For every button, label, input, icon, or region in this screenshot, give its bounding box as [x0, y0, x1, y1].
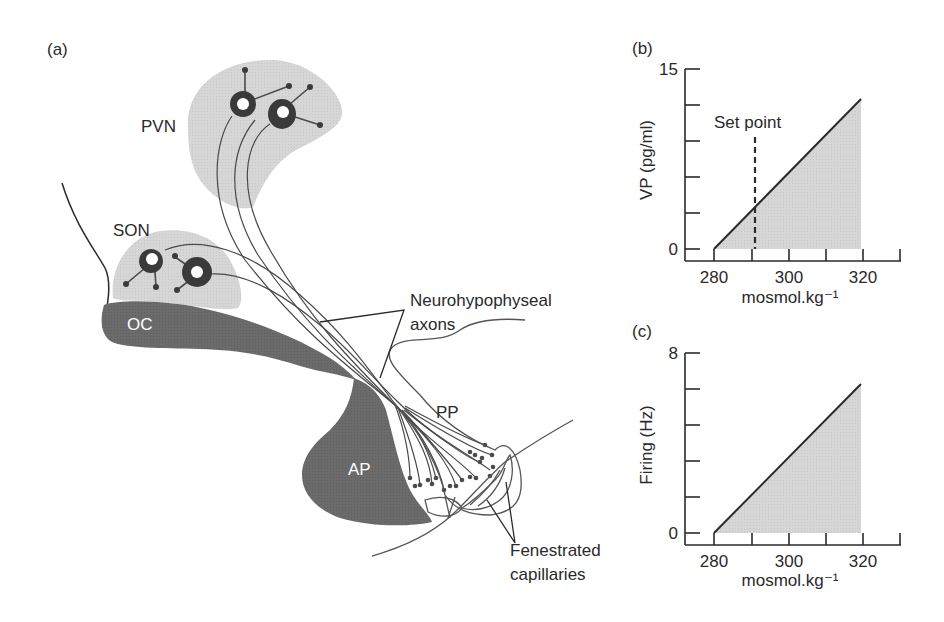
- panel-b-y-axis: [685, 69, 700, 261]
- set-point-label: Set point: [714, 113, 781, 132]
- panel-b-label: (b): [632, 39, 653, 58]
- capillaries-label-line1: Fenestrated: [510, 541, 601, 560]
- panel-c-ytick-bottom: 0: [669, 524, 678, 543]
- panel-b-xtick-280: 280: [700, 268, 728, 287]
- panel-b-ytick-bottom: 0: [669, 240, 678, 259]
- oc-label: OC: [127, 315, 153, 334]
- panel-c-label: (c): [632, 322, 652, 341]
- panel-b-xtick-320: 320: [849, 268, 877, 287]
- panel-a-label: (a): [47, 40, 68, 59]
- capillaries-label-line2: capillaries: [510, 565, 586, 584]
- panel-c-ylabel: Firing (Hz): [637, 405, 656, 484]
- panel-b-xtick-300: 300: [775, 268, 803, 287]
- panel-b-ylabel: VP (pg/ml): [637, 120, 656, 200]
- axons-label-line2: axons: [410, 315, 455, 334]
- boundary-curve: [62, 183, 109, 328]
- ap-label: AP: [348, 460, 371, 479]
- panel-c-xtick-320: 320: [849, 552, 877, 571]
- panel-c-x-axis: [685, 533, 901, 545]
- pp-label: PP: [436, 403, 459, 422]
- panel-c-ytick-top: 8: [669, 344, 678, 363]
- panel-b-ytick-top: 15: [659, 60, 678, 79]
- panel-b-chart: (b) Set point 15 0 280 300 320 mosmol: [632, 39, 901, 307]
- panel-b-x-axis: [685, 249, 901, 261]
- neurohypophysis-figure: (a) PVN SON: [0, 0, 944, 622]
- pvn-nucleus: [188, 60, 342, 208]
- panel-c-xtick-300: 300: [775, 552, 803, 571]
- son-nucleus: [113, 230, 242, 309]
- son-label: SON: [113, 221, 150, 240]
- axons-label-line1: Neurohypophyseal: [410, 291, 552, 310]
- panel-a: (a) PVN SON: [47, 40, 601, 584]
- panel-c-xlabel: mosmol.kg⁻¹: [742, 571, 839, 590]
- panel-b-xlabel: mosmol.kg⁻¹: [742, 288, 839, 307]
- pvn-label: PVN: [141, 117, 176, 136]
- panel-c-chart: (c) 8 0 280 300 320 mosmol.kg⁻¹ Firing (…: [632, 322, 901, 590]
- panel-c-xtick-280: 280: [700, 552, 728, 571]
- panel-c-y-axis: [685, 353, 700, 545]
